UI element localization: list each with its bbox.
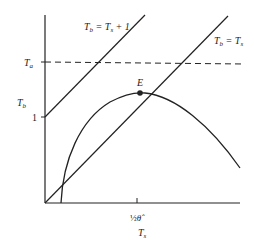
y-tick-label-ta: Ta [24,57,34,70]
ambient-temperature-line [45,62,245,64]
equilibrium-diagram: E Ta 1 Tb ½θ̂ Ts Tb = Ts + 1 Tb = Ts [0,0,254,249]
equilibrium-point [137,90,143,96]
x-tick-label: ½θ̂ [130,213,145,223]
label-tb-eq-ts-plus-1: Tb = Ts + 1 [84,21,130,34]
y-axis-label: Tb [17,97,27,110]
response-curve [61,93,240,203]
label-tb-eq-ts: Tb = Ts [214,35,243,48]
y-tick-label-1: 1 [32,112,37,123]
x-axis-label: Ts [138,227,147,240]
line-tb-eq-ts [45,16,228,203]
point-label-e: E [136,77,143,88]
